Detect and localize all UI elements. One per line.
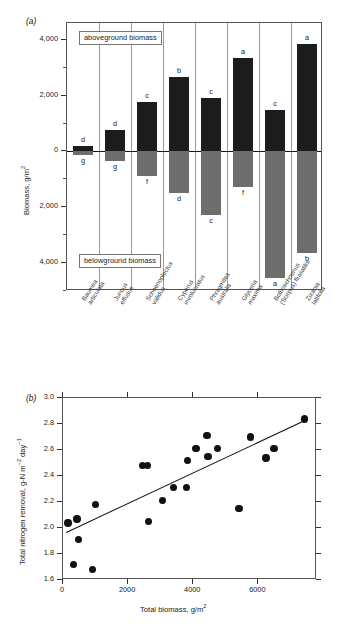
panel-a-cell-separator — [195, 23, 196, 289]
panel-b-x-tick-mark — [62, 579, 63, 584]
panel-b-y-tick-label: 3.0 — [0, 392, 54, 401]
panel-a-cell-separator — [259, 23, 260, 289]
scatter-point — [159, 497, 166, 504]
bar-aboveground — [265, 110, 284, 152]
panel-a-y-tick-label: 4,000 — [0, 257, 58, 266]
panel-b-y-tick-label: 2.2 — [0, 496, 54, 505]
sig-letter-aboveground: c — [198, 87, 224, 96]
bar-belowground — [233, 151, 252, 187]
sig-letter-aboveground: b — [166, 66, 192, 75]
bar-belowground — [137, 151, 156, 176]
scatter-point — [73, 515, 80, 522]
panel-b-x-tick-mark — [127, 579, 128, 584]
sig-letter-aboveground: c — [134, 91, 160, 100]
scatter-point — [70, 561, 77, 568]
scatter-point — [262, 454, 269, 461]
scatter-point — [204, 453, 211, 460]
bar-aboveground — [169, 77, 188, 152]
panel-a-y-tick-label: 4,000 — [0, 34, 58, 43]
bar-belowground — [105, 151, 124, 160]
bar-aboveground — [297, 44, 316, 151]
panel-b-y-tick-label: 1.6 — [0, 574, 54, 583]
panel-b-x-tick-label: 6000 — [237, 585, 277, 594]
panel-b-x-tick-mark — [257, 579, 258, 584]
sig-letter-belowground: g — [70, 156, 96, 165]
bar-aboveground — [201, 98, 220, 152]
panel-b: (b) Total nitrogen removal, g-N m−2 day−… — [0, 375, 343, 626]
scatter-point — [214, 445, 221, 452]
panel-a-y-tick-label: 2,000 — [0, 201, 58, 210]
sig-letter-belowground: f — [230, 188, 256, 197]
panel-b-y-tick-mark-right — [316, 501, 321, 502]
panel-b-y-tick-mark-right — [316, 553, 321, 554]
scatter-point — [183, 484, 190, 491]
panel-b-y-tick-mark-right — [316, 527, 321, 528]
scatter-point — [184, 457, 191, 464]
scatter-point — [203, 432, 210, 439]
sig-letter-belowground: c — [198, 216, 224, 225]
sig-letter-belowground: f — [134, 177, 160, 186]
panel-a-cell-separator — [163, 23, 164, 289]
scatter-point — [145, 518, 152, 525]
panel-b-y-tick-mark-right — [316, 423, 321, 424]
bar-belowground — [201, 151, 220, 215]
panel-b-x-tick-label: 4000 — [172, 585, 212, 594]
panel-a-y-tick-label: 0 — [0, 145, 58, 154]
panel-b-x-axis-title: Total biomass, g/m2 — [140, 603, 206, 614]
aboveground-biomass-label: aboveground biomass — [79, 31, 162, 45]
scatter-point — [301, 415, 308, 422]
panel-a-letter: (a) — [26, 16, 36, 26]
panel-b-y-tick-mark-right — [316, 397, 321, 398]
panel-a-y-minor-tick — [63, 290, 67, 291]
panel-b-y-tick-mark-right — [316, 579, 321, 580]
scatter-point — [92, 501, 99, 508]
panel-a-y-tick-label: 2,000 — [0, 90, 58, 99]
panel-b-y-tick-label: 1.8 — [0, 548, 54, 557]
sig-letter-belowground: g — [102, 162, 128, 171]
panel-a-cell-separator — [99, 23, 100, 289]
panel-b-y-tick-mark-right — [316, 449, 321, 450]
panel-b-y-tick-mark-right — [316, 475, 321, 476]
panel-b-trendline — [66, 420, 305, 533]
scatter-point — [144, 462, 151, 469]
bar-aboveground — [105, 130, 124, 151]
panel-a-cell-separator — [131, 23, 132, 289]
panel-b-x-tick-label: 0 — [42, 585, 82, 594]
panel-a-cell-separator — [291, 23, 292, 289]
sig-letter-aboveground: c — [262, 99, 288, 108]
panel-a-cell-separator — [227, 23, 228, 289]
scatter-point — [170, 484, 177, 491]
panel-b-plot-area — [62, 397, 316, 579]
panel-a-plot-area: dgdgcfbdccafcaab aboveground biomass bel… — [66, 22, 322, 290]
scatter-point — [75, 536, 82, 543]
panel-b-y-tick-label: 2.4 — [0, 470, 54, 479]
panel-a: (a) Biomass, g/m2 4,0002,00002,0004,000 … — [0, 0, 343, 375]
panel-b-x-tick-mark — [192, 579, 193, 584]
belowground-biomass-label: belowground biomass — [79, 254, 161, 268]
bar-aboveground — [233, 58, 252, 151]
bar-belowground — [265, 151, 284, 277]
panel-b-y-tick-label: 2.6 — [0, 444, 54, 453]
bar-belowground — [297, 151, 316, 253]
panel-b-y-tick-label: 2.0 — [0, 522, 54, 531]
sig-letter-aboveground: a — [294, 33, 320, 42]
bar-belowground — [169, 151, 188, 193]
sig-letter-belowground: d — [166, 194, 192, 203]
panel-b-y-tick-label: 2.8 — [0, 418, 54, 427]
scatter-point — [89, 566, 96, 573]
sig-letter-aboveground: d — [70, 135, 96, 144]
sig-letter-aboveground: d — [102, 119, 128, 128]
sig-letter-aboveground: a — [230, 47, 256, 56]
bar-belowground — [73, 151, 92, 155]
scatter-point — [270, 445, 277, 452]
scatter-point — [235, 505, 242, 512]
scatter-point — [192, 445, 199, 452]
scatter-point — [247, 433, 254, 440]
panel-b-x-tick-label: 2000 — [107, 585, 147, 594]
scatter-point — [64, 519, 71, 526]
figure-container: (a) Biomass, g/m2 4,0002,00002,0004,000 … — [0, 0, 343, 626]
bar-aboveground — [137, 102, 156, 151]
